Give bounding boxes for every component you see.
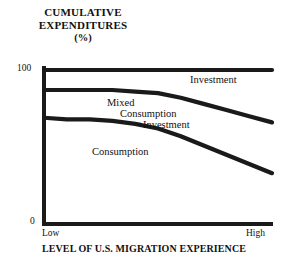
- x-axis-title: LEVEL OF U.S. MIGRATION EXPERIENCE: [0, 243, 288, 254]
- plot-area: 100 0 Low High Investment Mixed Consumpt…: [0, 0, 288, 262]
- y-axis-tick-0: 0: [30, 216, 35, 226]
- x-axis-tick-low: Low: [42, 228, 59, 238]
- chart-page: CUMULATIVE EXPENDITURES (%) 100 0 Low Hi…: [0, 0, 288, 262]
- band-label-mixed-consumption: Consumption: [120, 108, 177, 120]
- band-label-consumption: Consumption: [92, 146, 149, 158]
- y-axis-tick-100: 100: [17, 63, 31, 73]
- band-label-mixed: Mixed: [107, 97, 134, 109]
- x-axis-tick-high: High: [246, 228, 265, 238]
- x-axis: [42, 222, 273, 226]
- band-label-mixed-investment: +Investment: [137, 119, 190, 131]
- y-axis: [42, 66, 46, 226]
- band-label-investment: Investment: [190, 74, 237, 86]
